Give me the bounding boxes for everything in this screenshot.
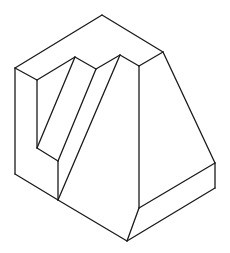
edge-line xyxy=(139,52,163,66)
edge-line xyxy=(37,57,75,80)
edge-line xyxy=(102,15,163,52)
isometric-drawing xyxy=(0,0,230,253)
edge-line xyxy=(127,208,139,241)
edge-line xyxy=(15,174,58,200)
edge-line xyxy=(75,57,96,69)
edge-line xyxy=(120,55,139,66)
edge-line xyxy=(127,188,215,241)
edge-line xyxy=(163,52,215,163)
edge-line xyxy=(139,163,215,208)
edge-line xyxy=(15,68,37,80)
edge-line xyxy=(15,15,102,68)
edge-line xyxy=(37,148,58,161)
edge-line xyxy=(58,200,127,241)
